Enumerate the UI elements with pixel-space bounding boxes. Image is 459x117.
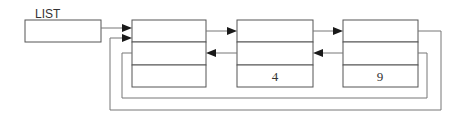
edge-node-2-to-node-1 (206, 49, 237, 57)
edge-node-2-to-node-3 (313, 27, 343, 35)
arrowhead-icon (206, 49, 216, 57)
node-2-value: 4 (272, 69, 279, 84)
node-1-data-field (132, 65, 206, 87)
node-2-prev-field (237, 42, 313, 65)
node-2-next-field (237, 20, 313, 42)
node-1 (132, 20, 206, 87)
node-1-prev-field (132, 42, 206, 65)
arrowhead-icon (333, 27, 343, 35)
node-3-prev-field (343, 42, 418, 65)
arrowhead-icon (122, 24, 132, 32)
list-pointer-box (25, 20, 101, 42)
arrowhead-icon (122, 34, 132, 42)
arrowhead-icon (313, 49, 323, 57)
edge-node-3-to-node-2 (313, 49, 343, 57)
list-label: LIST (35, 7, 61, 21)
node-1-next-field (132, 20, 206, 42)
node-3-next-field (343, 20, 418, 42)
edge-node-1-to-node-2 (206, 27, 237, 35)
node-3: 9 (343, 20, 418, 87)
node-3-value: 9 (377, 69, 384, 84)
arrowhead-icon (227, 27, 237, 35)
edge-list-to-node-1 (101, 24, 132, 32)
node-2: 4 (237, 20, 313, 87)
linked-list-diagram: LIST 4 9 (0, 0, 459, 117)
